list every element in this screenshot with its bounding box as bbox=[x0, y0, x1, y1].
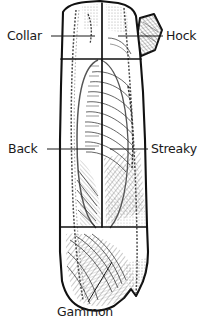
bacon-cuts-diagram: Collar Hock Back Streaky Gammon bbox=[0, 0, 207, 323]
label-back: Back bbox=[8, 141, 39, 156]
label-gammon: Gammon bbox=[57, 304, 113, 319]
diagram-canvas: Collar Hock Back Streaky Gammon bbox=[0, 0, 207, 323]
label-streaky: Streaky bbox=[151, 141, 198, 156]
collar-texture-left bbox=[82, 4, 99, 30]
label-collar: Collar bbox=[7, 28, 43, 43]
label-hock: Hock bbox=[166, 28, 197, 43]
